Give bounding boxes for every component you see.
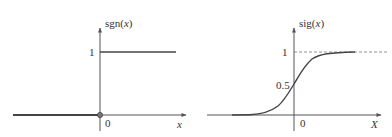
- sgn-x-label: x: [176, 118, 182, 130]
- sig-x-label: X: [370, 118, 379, 130]
- chart-canvas: sgn(x) 1 0 x sig(x) 1 0.5 0 X: [0, 0, 392, 137]
- sgn-chart: sgn(x) 1 0 x: [13, 17, 186, 131]
- sig-ytick-1: 1: [282, 46, 288, 58]
- sgn-xtick-0: 0: [105, 117, 111, 129]
- sgn-ytick-1: 1: [89, 46, 95, 58]
- sig-xtick-0: 0: [300, 117, 306, 129]
- sig-ytick-05: 0.5: [276, 79, 290, 91]
- sig-y-label: sig(x): [299, 17, 324, 30]
- origin-marker: [97, 112, 102, 117]
- sgn-y-label: sgn(x): [105, 17, 133, 30]
- sig-chart: sig(x) 1 0.5 0 X: [207, 17, 388, 131]
